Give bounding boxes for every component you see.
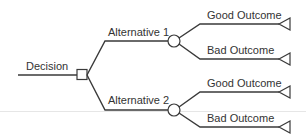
end-triangle-icon bbox=[279, 53, 290, 65]
alternative-2-label: Alternative 2 bbox=[108, 94, 169, 106]
outcome-label: Good Outcome bbox=[207, 77, 282, 89]
alternative-1-bad-outcome: Bad Outcome bbox=[179, 44, 290, 65]
decision-square-icon bbox=[77, 70, 87, 80]
alternative-1: Alternative 1 Good Outcome Bad Outcome bbox=[87, 9, 290, 75]
alternative-1-branch-line bbox=[87, 41, 168, 75]
alternative-2-good-outcome: Good Outcome bbox=[179, 77, 290, 107]
chance-circle-icon bbox=[168, 104, 180, 116]
outcome-branch-line bbox=[179, 24, 279, 38]
decision-root: Decision bbox=[18, 60, 87, 80]
outcome-label: Good Outcome bbox=[207, 9, 282, 21]
decision-label: Decision bbox=[26, 60, 68, 72]
alternative-2: Alternative 2 Good Outcome Bad Outcome bbox=[87, 75, 290, 133]
outcome-branch-line bbox=[179, 92, 279, 107]
outcome-label: Bad Outcome bbox=[207, 44, 274, 56]
alternative-2-bad-outcome: Bad Outcome bbox=[179, 112, 290, 133]
end-triangle-icon bbox=[279, 121, 290, 133]
outcome-label: Bad Outcome bbox=[207, 112, 274, 124]
chance-circle-icon bbox=[168, 35, 180, 47]
decision-tree-diagram: Decision Alternative 1 Good Outcome Bad … bbox=[0, 0, 306, 140]
alternative-1-good-outcome: Good Outcome bbox=[179, 9, 290, 38]
alternative-1-label: Alternative 1 bbox=[108, 26, 169, 38]
